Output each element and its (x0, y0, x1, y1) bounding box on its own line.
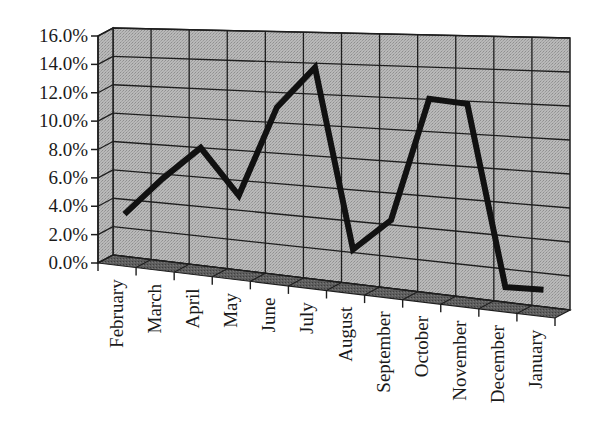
y-tick-label: 2.0% (48, 224, 88, 245)
y-tick-label: 14.0% (39, 53, 88, 74)
y-tick-label: 4.0% (48, 195, 88, 216)
x-tick-label: May (220, 293, 241, 328)
x-tick-label: October (411, 315, 432, 377)
line-chart-3d: 0.0%2.0%4.0%6.0%8.0%10.0%12.0%14.0%16.0%… (0, 0, 592, 439)
y-axis: 0.0%2.0%4.0%6.0%8.0%10.0%12.0%14.0%16.0% (39, 25, 98, 273)
x-tick-label: August (335, 306, 356, 362)
x-tick-label: July (296, 302, 317, 334)
y-tick-label: 12.0% (39, 82, 88, 103)
x-tick-label: January (525, 329, 546, 389)
x-tick-label: December (487, 324, 508, 403)
y-tick-label: 16.0% (39, 25, 88, 46)
x-tick-label: March (144, 283, 165, 333)
y-tick-label: 8.0% (48, 139, 88, 160)
x-tick-label: April (182, 288, 203, 328)
x-tick-label: November (449, 320, 470, 401)
x-tick-label: September (373, 311, 394, 393)
y-tick-label: 6.0% (48, 167, 88, 188)
y-tick-label: 0.0% (48, 252, 88, 273)
x-tick-label: February (106, 279, 127, 348)
y-tick-label: 10.0% (39, 110, 88, 131)
x-tick-label: June (258, 298, 279, 333)
